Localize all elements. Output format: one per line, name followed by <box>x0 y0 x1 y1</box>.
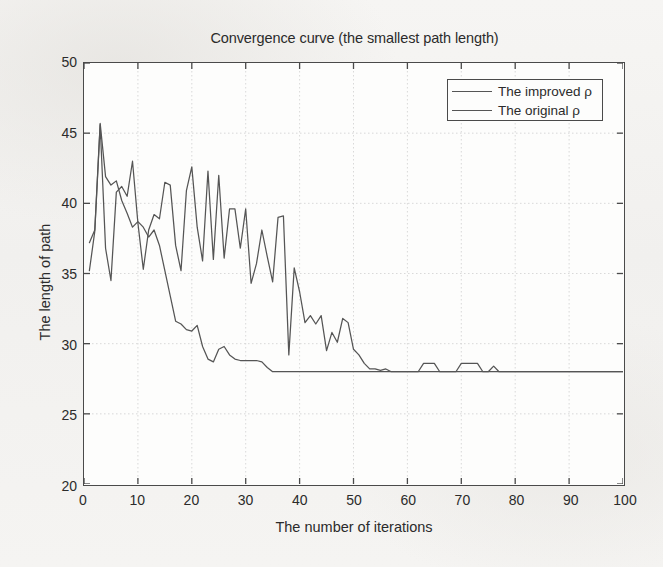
x-tick-label: 90 <box>551 492 591 508</box>
x-tick-label: 30 <box>226 492 266 508</box>
x-tick-label: 40 <box>280 492 320 508</box>
y-tick-label: 50 <box>43 54 77 70</box>
x-axis-title: The number of iterations <box>83 519 625 535</box>
x-axis-tick-labels: 0102030405060708090100 <box>83 492 625 514</box>
legend-entry-improved: The improved ρ <box>452 81 592 101</box>
x-tick-label: 80 <box>497 492 537 508</box>
x-tick-label: 0 <box>63 492 103 508</box>
plot-area: The improved ρ The original ρ <box>83 62 625 486</box>
x-tick-label: 100 <box>605 492 645 508</box>
y-tick-label: 45 <box>43 125 77 141</box>
series-line-original <box>89 125 623 372</box>
legend-line-sample-original <box>452 110 492 111</box>
legend-line-sample-improved <box>452 91 492 92</box>
x-tick-label: 60 <box>388 492 428 508</box>
chart-title: Convergence curve (the smallest path len… <box>83 30 626 46</box>
legend-label-improved: The improved ρ <box>498 84 592 99</box>
plot-canvas <box>84 63 623 484</box>
screenshot-root: Convergence curve (the smallest path len… <box>0 0 663 567</box>
x-tick-label: 10 <box>117 492 157 508</box>
legend-label-original: The original ρ <box>498 103 580 118</box>
chart-figure: Convergence curve (the smallest path len… <box>0 0 663 567</box>
chart-legend: The improved ρ The original ρ <box>447 79 603 121</box>
x-tick-label: 50 <box>334 492 374 508</box>
legend-entry-original: The original ρ <box>452 100 580 120</box>
x-tick-label: 20 <box>171 492 211 508</box>
y-axis-title: The length of path <box>37 152 53 412</box>
x-tick-label: 70 <box>442 492 482 508</box>
series-line-improved <box>89 123 623 371</box>
